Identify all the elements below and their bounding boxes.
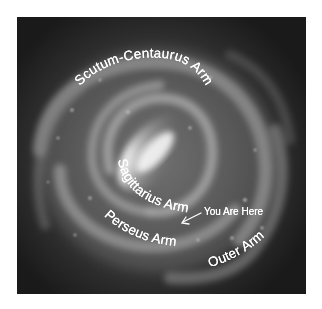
label-you-are-here: You Are Here [204, 206, 264, 217]
galaxy-figure: Scutum-Centaurus Arm Sagittarius Arm Per… [0, 0, 322, 309]
